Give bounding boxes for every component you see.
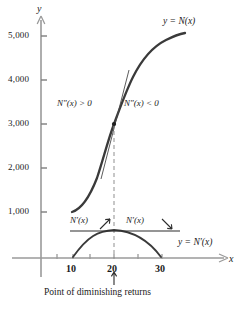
- y-tick-label-1000: 1,000: [8, 207, 29, 216]
- arrow-down-right-icon: [162, 219, 172, 229]
- label-concave-up: N″(x) > 0: [57, 99, 92, 108]
- y-axis-label: y: [37, 4, 41, 14]
- figure-diminishing-returns: 5,000 4,000 3,000 2,000 1,000 10 20 30 y…: [0, 0, 241, 309]
- curve-label-N: y = N(x): [163, 17, 195, 27]
- label-n-prime-decreasing: N′(x): [126, 216, 144, 225]
- label-n-prime-increasing: N′(x): [70, 216, 88, 225]
- x-tick-label-20: 20: [107, 264, 117, 274]
- curve-N-of-x: [72, 33, 185, 212]
- y-tick-label-3000: 3,000: [8, 119, 29, 128]
- x-tick-label-10: 10: [66, 264, 76, 274]
- curve-label-N-prime: y = N′(x): [178, 238, 212, 248]
- x-axis-label: x: [229, 254, 233, 264]
- caption-point-of-diminishing-returns: Point of diminishing returns: [44, 288, 151, 298]
- curve-N-prime-of-x: [73, 230, 161, 257]
- y-tick-label-4000: 4,000: [8, 75, 29, 84]
- chart-canvas: [0, 0, 241, 309]
- y-tick-marks: [41, 36, 47, 212]
- y-tick-label-2000: 2,000: [8, 163, 29, 172]
- x-tick-label-30: 30: [155, 264, 165, 274]
- arrow-up-right-icon: [100, 219, 110, 229]
- label-concave-down: N″(x) < 0: [124, 99, 159, 108]
- y-tick-label-5000: 5,000: [8, 31, 29, 40]
- inflection-point-marker: [112, 122, 116, 126]
